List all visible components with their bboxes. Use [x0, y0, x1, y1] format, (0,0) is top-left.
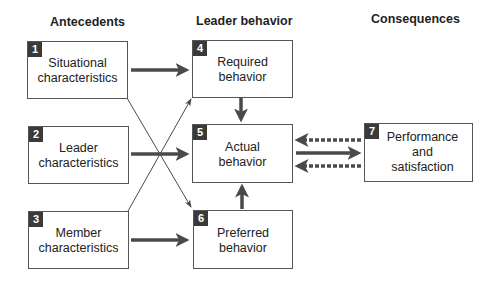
box-label: Leader characteristics [39, 139, 119, 171]
box-label: Actual behavior [219, 138, 267, 170]
box-number-badge: 7 [365, 124, 379, 139]
box-actual-behavior: 5 Actual behavior [192, 124, 293, 183]
label-line: behavior [217, 70, 268, 85]
box-label: Performance and satisfaction [379, 130, 459, 175]
box-label: Member characteristics [39, 224, 119, 256]
label-line: behavior [219, 155, 267, 170]
box-preferred-behavior: 6 Preferred behavior [193, 210, 293, 269]
label-line: behavior [217, 241, 269, 256]
label-line: Performance [387, 130, 459, 145]
label-line: Member [39, 226, 119, 241]
box-required-behavior: 4 Required behavior [192, 40, 293, 98]
box-number-badge: 2 [29, 127, 43, 142]
box-number-badge: 4 [193, 41, 207, 56]
label-line: characteristics [39, 156, 119, 171]
box-number-badge: 3 [29, 212, 43, 227]
label-line: and [387, 145, 459, 160]
box-member-characteristics: 3 Member characteristics [28, 211, 129, 269]
box-performance-and-satisfaction: 7 Performance and satisfaction [364, 123, 473, 182]
label-line: Leader [39, 141, 119, 156]
box-number-badge: 1 [28, 42, 42, 57]
box-number-badge: 5 [193, 125, 207, 140]
box-label: Preferred behavior [217, 224, 269, 256]
label-line: Required [217, 55, 268, 70]
box-leader-characteristics: 2 Leader characteristics [28, 126, 129, 184]
label-line: Actual [219, 140, 267, 155]
box-situational-characteristics: 1 Situational characteristics [27, 41, 128, 99]
box-label: Situational characteristics [38, 54, 118, 86]
label-line: Preferred [217, 226, 269, 241]
box-label: Required behavior [217, 53, 268, 85]
label-line: Situational [38, 56, 118, 71]
label-line: satisfaction [387, 160, 459, 175]
label-line: characteristics [39, 241, 119, 256]
label-line: characteristics [38, 71, 118, 86]
box-number-badge: 6 [194, 211, 208, 226]
